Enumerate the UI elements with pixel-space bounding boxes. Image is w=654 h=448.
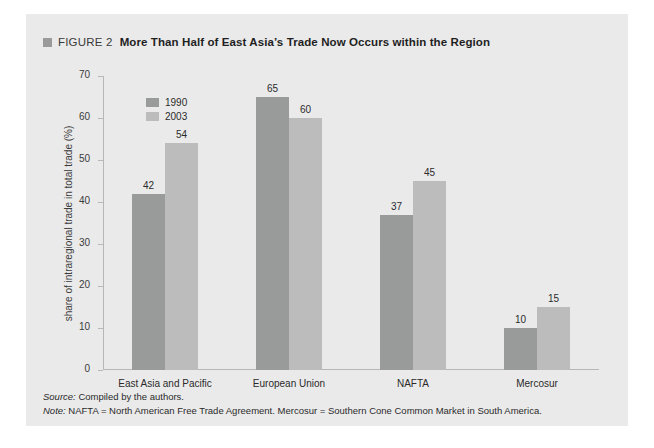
y-tick-label: 70 bbox=[79, 69, 90, 80]
y-axis-title: share of intraregional trade in total tr… bbox=[62, 76, 76, 370]
y-tick-label: 0 bbox=[84, 363, 90, 374]
y-tick-label: 20 bbox=[79, 279, 90, 290]
legend-item-1990[interactable]: 1990 bbox=[146, 97, 187, 108]
y-axis-title-text: share of intraregional trade in total tr… bbox=[64, 125, 75, 321]
y-tick-0: 0 bbox=[98, 370, 103, 371]
y-tick-label: 40 bbox=[79, 195, 90, 206]
figure-title: More Than Half of East Asia’s Trade Now … bbox=[120, 36, 490, 48]
square-marker-icon bbox=[43, 38, 52, 47]
legend-swatch-icon bbox=[146, 112, 159, 121]
bar-1990[interactable]: 37 bbox=[380, 215, 413, 370]
bar-value-label: 60 bbox=[289, 104, 322, 115]
bar-value-label: 65 bbox=[256, 83, 289, 94]
bar-group: 4254East Asia and Pacific bbox=[103, 143, 227, 370]
bar-value-label: 15 bbox=[537, 293, 570, 304]
bar-1990[interactable]: 65 bbox=[256, 97, 289, 370]
bar-group: 3745NAFTA bbox=[351, 181, 475, 370]
source-label: Source: bbox=[43, 391, 76, 402]
bar-1990[interactable]: 42 bbox=[132, 194, 165, 370]
bar-rect[interactable] bbox=[132, 194, 165, 370]
note-label: Note: bbox=[43, 405, 66, 416]
bar-rect[interactable] bbox=[380, 215, 413, 370]
bar-value-label: 45 bbox=[413, 167, 446, 178]
bar-rect[interactable] bbox=[504, 328, 537, 370]
legend-item-2003[interactable]: 2003 bbox=[146, 111, 187, 122]
bar-2003[interactable]: 45 bbox=[413, 181, 446, 370]
figure-footer: Source: Compiled by the authors. Note: N… bbox=[43, 390, 542, 418]
bar-2003[interactable]: 15 bbox=[537, 307, 570, 370]
bar-rect[interactable] bbox=[165, 143, 198, 370]
x-axis-category-label: Mercosur bbox=[447, 378, 627, 389]
y-tick-70: 70 bbox=[98, 76, 103, 77]
legend-label: 2003 bbox=[165, 111, 187, 122]
source-text: Compiled by the authors. bbox=[76, 391, 184, 402]
bar-group: 6560European Union bbox=[227, 97, 351, 370]
figure-panel: FIGURE 2 More Than Half of East Asia’s T… bbox=[26, 14, 628, 426]
bar-1990[interactable]: 10 bbox=[504, 328, 537, 370]
y-tick-label: 50 bbox=[79, 153, 90, 164]
y-tick-label: 10 bbox=[79, 321, 90, 332]
legend-label: 1990 bbox=[165, 97, 187, 108]
source-line: Source: Compiled by the authors. bbox=[43, 390, 542, 404]
bar-rect[interactable] bbox=[537, 307, 570, 370]
chart-legend: 19902003 bbox=[146, 97, 187, 125]
note-text: NAFTA = North American Free Trade Agreem… bbox=[66, 405, 542, 416]
bar-value-label: 10 bbox=[504, 314, 537, 325]
bar-rect[interactable] bbox=[256, 97, 289, 370]
y-tick-label: 30 bbox=[79, 237, 90, 248]
bar-2003[interactable]: 60 bbox=[289, 118, 322, 370]
figure-label: FIGURE 2 bbox=[58, 36, 113, 48]
y-tick-label: 60 bbox=[79, 111, 90, 122]
bar-rect[interactable] bbox=[289, 118, 322, 370]
bar-group: 1015Mercosur bbox=[475, 307, 599, 370]
figure-header: FIGURE 2 More Than Half of East Asia’s T… bbox=[43, 36, 490, 48]
bar-rect[interactable] bbox=[413, 181, 446, 370]
bar-value-label: 42 bbox=[132, 180, 165, 191]
bar-2003[interactable]: 54 bbox=[165, 143, 198, 370]
bar-value-label: 54 bbox=[165, 129, 198, 140]
y-tick-60: 60 bbox=[98, 118, 103, 119]
note-line: Note: NAFTA = North American Free Trade … bbox=[43, 404, 542, 418]
legend-swatch-icon bbox=[146, 98, 159, 107]
bar-value-label: 37 bbox=[380, 201, 413, 212]
